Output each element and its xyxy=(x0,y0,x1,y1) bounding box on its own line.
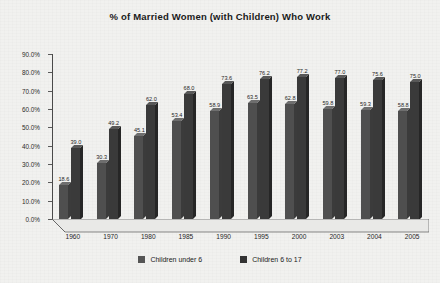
y-axis-labels: 0.0%10.0%20.0%30.0%40.0%50.0%60.0%70.0%8… xyxy=(0,54,40,220)
bar-face-front xyxy=(109,129,118,219)
bar-face-front xyxy=(97,163,106,219)
bar-value-label: 77.2 xyxy=(297,68,308,74)
bar-value-label: 73.6 xyxy=(221,75,232,81)
bar-value-label: 58.9 xyxy=(209,102,220,108)
bar-group: 58.973.6 xyxy=(203,54,241,219)
bar-face-front xyxy=(373,80,382,219)
bar-face-front xyxy=(361,110,370,219)
bar-group: 53.468.0 xyxy=(165,54,203,219)
legend-item[interactable]: Children under 6 xyxy=(138,256,202,263)
y-axis-tick-label: 90.0% xyxy=(0,51,40,58)
bar-face-front xyxy=(297,77,306,219)
chart-floor-3d xyxy=(52,219,429,233)
bar: 63.5 xyxy=(248,103,257,219)
bar-face-side xyxy=(382,77,385,219)
bar-value-label: 75.0 xyxy=(410,73,421,79)
bar-value-label: 75.6 xyxy=(372,71,383,77)
y-axis-tick-label: 80.0% xyxy=(0,69,40,76)
y-axis-tick-label: 30.0% xyxy=(0,161,40,168)
bar-face-front xyxy=(172,121,181,219)
y-axis-tick-label: 40.0% xyxy=(0,142,40,149)
bar-group: 62.877.2 xyxy=(278,54,316,219)
bar-face-side xyxy=(193,91,196,219)
bar: 77.2 xyxy=(297,77,306,219)
bar-value-label: 53.4 xyxy=(172,112,183,118)
legend-item[interactable]: Children 6 to 17 xyxy=(240,256,301,263)
bar-value-label: 30.3 xyxy=(96,154,107,160)
bar-face-side xyxy=(269,76,272,219)
bar-value-label: 59.8 xyxy=(322,100,333,106)
bar-value-label: 76.2 xyxy=(259,70,270,76)
bar-group: 59.375.6 xyxy=(354,54,392,219)
bar: 62.8 xyxy=(285,104,294,219)
bar-face-front xyxy=(222,84,231,219)
bar-group: 63.576.2 xyxy=(241,54,279,219)
bar-face-front xyxy=(248,103,257,219)
x-axis-tick-label: 2004 xyxy=(367,233,382,240)
bar: 45.1 xyxy=(134,136,143,219)
y-axis-tick-label: 60.0% xyxy=(0,106,40,113)
bar-value-label: 77.0 xyxy=(334,69,345,75)
bar: 76.2 xyxy=(260,79,269,219)
bar: 68.0 xyxy=(184,94,193,219)
bar: 53.4 xyxy=(172,121,181,219)
x-axis-tick-label: 2005 xyxy=(405,233,420,240)
x-axis-tick-label: 2003 xyxy=(329,233,344,240)
x-axis-tick-label: 1985 xyxy=(179,233,194,240)
bar: 59.3 xyxy=(361,110,370,219)
page-title: % of Married Women (with Children) Who W… xyxy=(0,11,440,22)
bar: 49.2 xyxy=(109,129,118,219)
x-axis-tick-label: 1980 xyxy=(141,233,156,240)
bar: 18.6 xyxy=(59,185,68,219)
bar-face-front xyxy=(410,82,419,220)
bar-value-label: 62.0 xyxy=(146,96,157,102)
bar: 39.0 xyxy=(71,148,80,220)
bar-value-label: 58.8 xyxy=(398,102,409,108)
chart-legend: Children under 6Children 6 to 17 xyxy=(0,256,440,263)
bar-face-side xyxy=(306,74,309,219)
bar-group: 45.162.0 xyxy=(127,54,165,219)
x-axis-tick-label: 1970 xyxy=(103,233,118,240)
bar-face-side xyxy=(344,75,347,219)
y-axis-tick-label: 50.0% xyxy=(0,124,40,131)
bar-face-front xyxy=(59,185,68,219)
legend-label: Children under 6 xyxy=(150,256,202,263)
bar-value-label: 63.5 xyxy=(247,94,258,100)
bar-face-front xyxy=(335,78,344,219)
legend-swatch xyxy=(240,256,247,263)
y-axis-tick-label: 70.0% xyxy=(0,87,40,94)
x-axis-labels: 1960197019801985199019952000200320042005 xyxy=(52,233,429,247)
bar-value-label: 39.0 xyxy=(70,139,81,145)
bar-face-side xyxy=(419,78,422,219)
bar: 30.3 xyxy=(97,163,106,219)
bar: 75.6 xyxy=(373,80,382,219)
x-axis-tick-label: 1990 xyxy=(216,233,231,240)
bar: 58.9 xyxy=(210,111,219,219)
bar-face-front xyxy=(71,148,80,220)
bar-face-side xyxy=(80,144,83,219)
bar-face-front xyxy=(210,111,219,219)
plot-area: 18.639.030.349.245.162.053.468.058.973.6… xyxy=(52,54,429,220)
bar: 75.0 xyxy=(410,82,419,220)
bar-face-front xyxy=(398,111,407,219)
bar-group: 58.875.0 xyxy=(391,54,429,219)
bar-group: 30.349.2 xyxy=(90,54,128,219)
legend-label: Children 6 to 17 xyxy=(252,256,301,263)
bar-face-side xyxy=(155,102,158,219)
bar: 62.0 xyxy=(146,105,155,219)
bar-groups: 18.639.030.349.245.162.053.468.058.973.6… xyxy=(52,54,429,220)
x-axis-tick-label: 1960 xyxy=(66,233,81,240)
bar-face-front xyxy=(323,109,332,219)
bar-value-label: 49.2 xyxy=(108,120,119,126)
bar: 58.8 xyxy=(398,111,407,219)
bar-value-label: 59.3 xyxy=(360,101,371,107)
bar-face-front xyxy=(184,94,193,219)
bar: 59.8 xyxy=(323,109,332,219)
bar-face-side xyxy=(231,81,234,219)
bar-face-side xyxy=(118,126,121,219)
x-axis-tick-label: 1995 xyxy=(254,233,269,240)
bar-value-label: 68.0 xyxy=(184,85,195,91)
y-axis-tick-label: 0.0% xyxy=(0,216,40,223)
bar: 73.6 xyxy=(222,84,231,219)
bar-group: 18.639.0 xyxy=(52,54,90,219)
